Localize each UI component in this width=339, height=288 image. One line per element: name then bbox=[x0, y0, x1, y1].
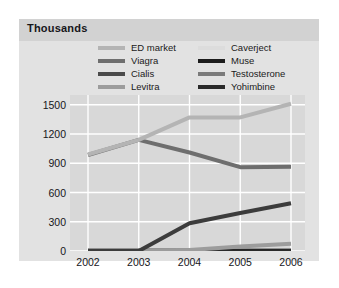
legend-label: Caverject bbox=[231, 41, 271, 54]
legend-swatch-icon bbox=[198, 59, 225, 63]
y-axis-tick-label: 900 bbox=[26, 157, 66, 169]
legend-item[interactable]: Testosterone bbox=[198, 67, 303, 80]
y-axis-tick-label: 1200 bbox=[26, 128, 66, 140]
legend-column-right: Caverject Muse Testosterone Yohimbine bbox=[198, 41, 303, 93]
legend-label: Testosterone bbox=[231, 67, 285, 80]
legend-swatch-icon bbox=[198, 85, 225, 89]
legend-label: Viagra bbox=[131, 54, 158, 67]
x-axis-tick-label: 2002 bbox=[65, 256, 111, 268]
legend-item[interactable]: Yohimbine bbox=[198, 80, 303, 93]
plot-area bbox=[70, 95, 305, 251]
legend-label: ED market bbox=[131, 41, 176, 54]
legend-label: Yohimbine bbox=[231, 80, 275, 93]
legend-item[interactable]: ED market bbox=[98, 41, 198, 54]
legend-label: Cialis bbox=[131, 67, 154, 80]
x-axis-tick-label: 2005 bbox=[217, 256, 263, 268]
chart-title: Thousands bbox=[27, 22, 87, 34]
y-axis-tick-label: 0 bbox=[26, 245, 66, 257]
legend-swatch-icon bbox=[198, 46, 225, 50]
chart-figure: Thousands ED market Viagra Cialis Levitr… bbox=[0, 0, 339, 288]
legend-label: Levitra bbox=[131, 80, 160, 93]
x-axis-tick-label: 2003 bbox=[116, 256, 162, 268]
y-axis-tick-label: 1500 bbox=[26, 99, 66, 111]
x-axis-tick-label: 2004 bbox=[167, 256, 213, 268]
y-axis-tick-label: 600 bbox=[26, 187, 66, 199]
legend-swatch-icon bbox=[98, 85, 125, 89]
legend-swatch-icon bbox=[98, 72, 125, 76]
legend-item[interactable]: Viagra bbox=[98, 54, 198, 67]
legend-item[interactable]: Cialis bbox=[98, 67, 198, 80]
x-axis-tick-label: 2006 bbox=[268, 256, 314, 268]
legend-label: Muse bbox=[231, 54, 254, 67]
legend-item[interactable]: Muse bbox=[198, 54, 303, 67]
chart-legend: ED market Viagra Cialis Levitra Caverjec… bbox=[98, 41, 303, 97]
legend-item[interactable]: Caverject bbox=[198, 41, 303, 54]
y-axis-tick-label: 300 bbox=[26, 216, 66, 228]
x-axis: 20022003200420052006 bbox=[70, 256, 305, 274]
y-axis: 030060090012001500 bbox=[22, 95, 66, 251]
legend-swatch-icon bbox=[98, 46, 125, 50]
legend-swatch-icon bbox=[198, 72, 225, 76]
legend-column-left: ED market Viagra Cialis Levitra bbox=[98, 41, 198, 93]
legend-item[interactable]: Levitra bbox=[98, 80, 198, 93]
legend-swatch-icon bbox=[98, 59, 125, 63]
plot-lines bbox=[70, 95, 305, 251]
